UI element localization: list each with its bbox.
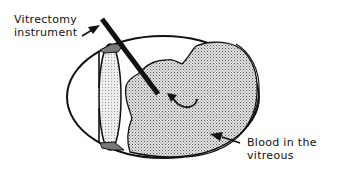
instrument-pointer-line xyxy=(82,30,92,36)
blood-label: Blood in the vitreous xyxy=(247,136,317,162)
vitrectomy-diagram: Vitrectomy instrument Blood in the vitre… xyxy=(0,0,338,173)
lens xyxy=(99,44,121,150)
instrument-pointer-arrowhead xyxy=(88,25,100,34)
blood-label-line1: Blood in the xyxy=(247,136,317,149)
blood-label-line2: vitreous xyxy=(247,149,317,162)
instrument-label-line1: Vitrectomy xyxy=(14,13,77,26)
instrument-label: Vitrectomy instrument xyxy=(14,13,77,39)
instrument-label-line2: instrument xyxy=(14,26,77,39)
